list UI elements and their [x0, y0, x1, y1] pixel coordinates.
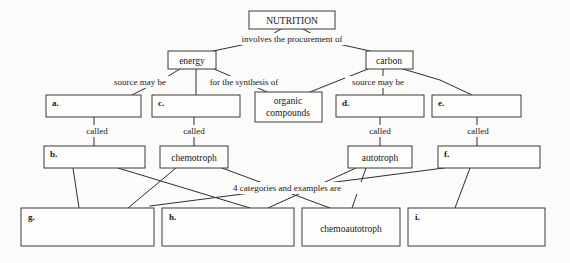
node-organic-compounds-label-line2: compounds	[266, 108, 310, 118]
node-blank-f-label: f.	[444, 149, 449, 159]
node-blank-h[interactable]: h.	[162, 208, 294, 246]
node-blank-h-label: h.	[169, 212, 176, 222]
edge-label-called-c-to-chemotroph: called	[183, 126, 205, 136]
node-carbon-label: carbon	[376, 56, 402, 66]
node-energy-label: energy	[179, 56, 205, 66]
node-blank-f-box[interactable]	[438, 146, 540, 168]
node-blank-f[interactable]: f.	[438, 146, 540, 168]
connector-f-i	[455, 168, 470, 208]
edge-label-called-a-to-b: called	[86, 126, 108, 136]
node-blank-b-label: b.	[50, 149, 57, 159]
node-blank-g-label: g.	[28, 212, 35, 222]
edge-label-called-e-to-f: called	[467, 126, 489, 136]
node-blank-h-box[interactable]	[162, 208, 294, 246]
node-blank-b-box[interactable]	[44, 146, 145, 168]
edge-label-for-the-synthesis-of: for the synthesis of	[210, 77, 279, 87]
edge-label-involves-procurement: involves the procurement of	[241, 34, 342, 44]
edge-label-carbon-source-may-be: source may be	[352, 77, 404, 87]
node-blank-i-box[interactable]	[408, 208, 545, 246]
concept-map-page: involves the procurement of source may b…	[0, 0, 570, 263]
node-blank-i[interactable]: i.	[408, 208, 545, 246]
node-nutrition-label: NUTRITION	[266, 16, 318, 26]
node-blank-c[interactable]: c.	[152, 95, 240, 117]
node-nutrition[interactable]: NUTRITION	[249, 11, 335, 29]
node-blank-b[interactable]: b.	[44, 146, 145, 168]
connector-chemotroph-g	[128, 168, 176, 208]
node-blank-d[interactable]: d.	[336, 95, 424, 117]
edge-label-energy-source-may-be: source may be	[114, 77, 166, 87]
node-chemotroph[interactable]: chemotroph	[160, 146, 228, 168]
node-energy[interactable]: energy	[168, 51, 216, 69]
edge-label-called-d-to-autotroph: called	[369, 126, 391, 136]
edge-label-4-categories-and-examples: 4 categories and examples are	[233, 183, 341, 193]
node-blank-d-label: d.	[342, 98, 349, 108]
node-blank-g-box[interactable]	[21, 208, 154, 246]
node-organic-compounds[interactable]: organic compounds	[255, 92, 322, 122]
connector-carbon-e	[403, 69, 472, 95]
node-blank-e-box[interactable]	[432, 95, 521, 117]
node-carbon[interactable]: carbon	[366, 51, 413, 69]
node-blank-a-box[interactable]	[46, 95, 141, 117]
connector-b-g	[73, 168, 79, 208]
node-organic-compounds-label-line1: organic	[274, 96, 302, 106]
node-chemotroph-label: chemotroph	[171, 153, 217, 163]
node-blank-e[interactable]: e.	[432, 95, 521, 117]
node-chemoautotroph[interactable]: chemoautotroph	[302, 208, 400, 246]
node-blank-g[interactable]: g.	[21, 208, 154, 246]
node-blank-a[interactable]: a.	[46, 95, 141, 117]
nutrition-concept-map: involves the procurement of source may b…	[0, 0, 570, 263]
node-autotroph-label: autotroph	[362, 153, 399, 163]
node-autotroph[interactable]: autotroph	[348, 146, 412, 168]
node-chemoautotroph-label: chemoautotroph	[320, 224, 382, 234]
node-blank-e-label: e.	[438, 98, 444, 108]
node-blank-i-label: i.	[415, 212, 420, 222]
node-blank-c-box[interactable]	[152, 95, 240, 117]
node-blank-a-label: a.	[52, 98, 59, 108]
node-blank-c-label: c.	[158, 98, 164, 108]
